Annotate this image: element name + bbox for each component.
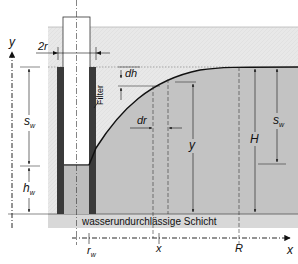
dh-label: dh (125, 67, 137, 79)
y-dimension-label: y (188, 138, 196, 152)
tick-x-label: x (155, 242, 162, 254)
tick-R-label: R (235, 242, 243, 254)
x-axis-label: x (286, 243, 294, 257)
filter-label: Filter (95, 85, 105, 105)
tick-rw-label: rw (87, 244, 97, 258)
well-casing-left (57, 67, 64, 214)
y-axis-label: y (8, 35, 16, 49)
well-drawdown-diagram: wasserundurchlässige Schicht 2r Filter d… (0, 0, 298, 264)
impermeable-layer-label: wasserundurchlässige Schicht (81, 216, 217, 227)
H-label: H (250, 132, 259, 146)
two-r-label: 2r (37, 40, 49, 52)
dr-label: dr (137, 114, 148, 126)
